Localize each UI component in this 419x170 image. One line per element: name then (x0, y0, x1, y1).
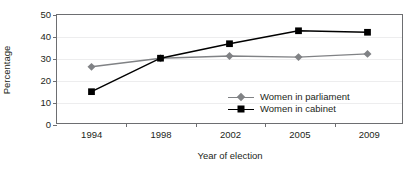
y-tick-label: 20 (11, 76, 51, 86)
square-marker-icon (238, 106, 245, 113)
square-marker-icon (157, 55, 164, 62)
square-marker-icon (364, 29, 371, 36)
diamond-marker-icon (295, 53, 303, 61)
square-marker-icon (88, 88, 95, 95)
legend-label-cabinet: Women in cabinet (260, 103, 336, 115)
square-marker-icon (295, 27, 302, 34)
diamond-marker-icon (237, 93, 245, 101)
y-tick-mark (53, 125, 57, 126)
diamond-marker-icon (88, 63, 96, 71)
diamond-marker-icon (226, 52, 234, 60)
x-tick-label: 2005 (270, 130, 330, 140)
x-axis-title: Year of election (56, 150, 404, 161)
x-tick-mark (335, 123, 336, 127)
legend-item-cabinet: Women in cabinet (228, 103, 350, 115)
y-tick-label: 30 (11, 54, 51, 64)
y-tick-label: 10 (11, 98, 51, 108)
x-tick-label: 1998 (131, 130, 191, 140)
x-tick-label: 1994 (62, 130, 122, 140)
diamond-marker-icon (364, 50, 372, 58)
x-tick-mark (265, 123, 266, 127)
line-chart-figure: Percentage 01020304050 19941998200220052… (0, 0, 419, 170)
y-tick-label: 0 (11, 120, 51, 130)
y-tick-label: 50 (11, 10, 51, 20)
legend-swatch-cabinet (228, 103, 254, 115)
x-tick-label: 2002 (201, 130, 261, 140)
y-tick-label: 40 (11, 32, 51, 42)
legend-swatch-parliament (228, 91, 254, 103)
legend-label-parliament: Women in parliament (260, 91, 350, 103)
legend-item-parliament: Women in parliament (228, 91, 350, 103)
x-tick-mark (196, 123, 197, 127)
chart-legend: Women in parliament Women in cabinet (228, 91, 350, 115)
y-axis-title: Percentage (0, 5, 14, 135)
square-marker-icon (226, 40, 233, 47)
x-tick-mark (126, 123, 127, 127)
x-tick-label: 2009 (339, 130, 399, 140)
